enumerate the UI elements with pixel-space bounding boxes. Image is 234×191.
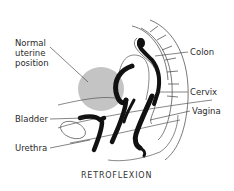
label-normal-line-3: position	[15, 58, 49, 68]
label-normal-line-1: Normal	[15, 38, 49, 48]
label-urethra: Urethra	[15, 143, 47, 153]
vagina-cervix	[135, 96, 152, 156]
bladder-urethra	[80, 117, 104, 150]
label-vagina: Vagina	[192, 106, 221, 116]
label-bladder: Bladder	[15, 114, 48, 124]
label-normal-line-2: uterine	[15, 48, 49, 58]
label-normal-uterine-position: Normal uterine position	[15, 38, 49, 68]
label-colon: Colon	[190, 47, 214, 57]
retroflexion-diagram: Normal uterine position Colon Cervix Vag…	[0, 0, 234, 191]
pubic-bone-outline	[58, 118, 88, 142]
label-cervix: Cervix	[190, 87, 217, 97]
diagram-caption: RETROFLEXION	[81, 171, 152, 180]
